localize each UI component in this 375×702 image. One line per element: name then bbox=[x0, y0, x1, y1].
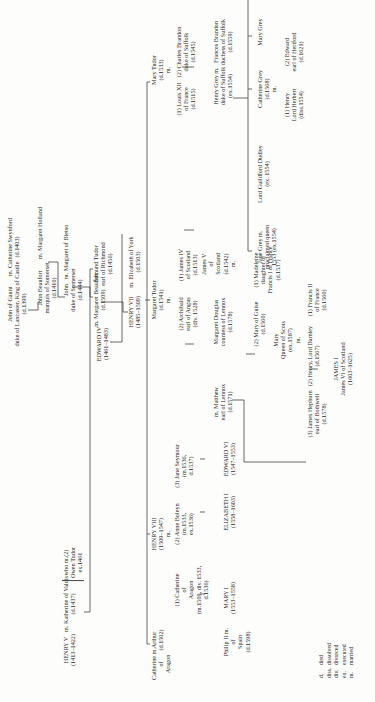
node-margaret-holland: m. Margaret Holland bbox=[36, 207, 43, 259]
node-margaret-douglas: Margaret Douglas countess of Lennox (d.1… bbox=[212, 298, 234, 346]
node-james-v: James V of Scotland (d.1542) m. bbox=[200, 253, 236, 275]
node-philip-ii: Philip II m. of Spain (d.1598) bbox=[222, 628, 251, 656]
node-mary-of-guise: (2) Mary of Guise (d.1560) bbox=[252, 302, 266, 347]
node-henry-lord-darnley: (2) Henry, Lord Darnley (d.1567) bbox=[306, 326, 320, 386]
node-charles-brandon: (2) Charles Brandon duke of Suffolk (d.1… bbox=[175, 27, 197, 78]
node-james-hepburn-bothwell: (3) James Hepburn earl of Bothwell (d.15… bbox=[306, 390, 328, 437]
node-henry-vii: HENRY VII (1485–1509) bbox=[127, 296, 141, 328]
legend-row: m.married bbox=[348, 643, 356, 678]
node-arthur: Arthur (d.1502) bbox=[150, 629, 164, 650]
node-elizabeth-i: ELIZABETH I (1558–1603) bbox=[222, 493, 236, 531]
node-margaret-tudor: Margaret Tudor (d.1541) m. bbox=[150, 281, 172, 320]
node-mary-tudor: Mary Tudor (d.1533) m. bbox=[150, 55, 172, 85]
node-jane-seymour: (3) Jane Seymour (m.1536, d.1537) bbox=[173, 444, 195, 488]
node-john-beaufort: John Beaufort marquis of Somerset (d.141… bbox=[36, 262, 58, 313]
legend-row: ex.executed bbox=[341, 643, 349, 678]
node-henry-viii: HENRY VIII (1509–1547) m. bbox=[150, 518, 172, 551]
node-edward-earl-of-hertford: (2) Edward earl of Hertford (d.1621) bbox=[283, 33, 305, 72]
node-catherine-of-aragon-wife-1: (1) Catherine of Aragon (m.1509, div. 15… bbox=[173, 566, 209, 614]
node-margaret-beaufort: m. Margaret Beaufort (d.1509) bbox=[92, 273, 106, 327]
node-james-i: JAMES I James VI of Scotland (1603–1625) bbox=[332, 343, 354, 396]
node-catherine-swynford: m. Catherine Swynford (d.1403) bbox=[6, 218, 20, 276]
legend-row: div.divorced bbox=[333, 643, 341, 678]
node-catherine-of-aragon-arthur-wife: Catherine m. of Aragon bbox=[150, 648, 172, 680]
legend-row: d.died bbox=[318, 643, 326, 678]
node-mary-grey: Mary Grey bbox=[256, 18, 263, 45]
tudor-family-tree: John of Gaunt duke of Lancaster, King of… bbox=[0, 0, 375, 702]
node-jane-grey: Jane Grey m. proclaimed queen 1553 (ex.1… bbox=[256, 225, 278, 269]
node-james-iv: (1) James IV of Scotland (d.1513) bbox=[177, 249, 199, 281]
node-edward-iv: EDWARD IV (1461–1483) bbox=[95, 327, 109, 362]
node-mary-i: MARY I (1553–1558) bbox=[222, 582, 236, 614]
node-margaret-of-bletso: m. Margaret of Bletso bbox=[62, 225, 69, 280]
node-catherine-grey: Catherine Grey (d.1568) m. bbox=[256, 70, 278, 108]
node-mary-queen-of-scots: Mary Queen of Scots (ex.1587) m. bbox=[272, 321, 301, 359]
legend-row: diss.dissolved bbox=[326, 643, 334, 678]
node-frances-brandon: Frances Brandon duchess of Suffolk (d.15… bbox=[212, 19, 234, 65]
node-henry-lord-herbert: (1) Henry Lord Herbert (diss.1554) bbox=[283, 89, 305, 121]
node-francis-ii: (1) Francis II of France (d.1560) bbox=[306, 284, 328, 317]
node-henry-grey: Henry Grey m. duke of Suffolk (ex.1554) bbox=[212, 67, 234, 106]
node-matthew-earl-of-lennox: m. Matthew earl of Lennox (d.1571) bbox=[212, 384, 234, 420]
node-henry-v: HENRY V (1413–1422) bbox=[62, 634, 76, 666]
node-katherine-of-valois: m. Katherine of Valois (d.1437) bbox=[62, 576, 76, 632]
node-owen-tudor: who m.(2) Owen Tudor ex.1461 bbox=[62, 547, 84, 581]
node-anne-boleyn: (2) Anne Boleyn (m.1533, ex.1536) bbox=[173, 503, 195, 544]
node-edward-vi: EDWARD VI (1547–1553) bbox=[222, 442, 236, 476]
node-elizabeth-of-york: m. Elizabeth of York (d.1503) bbox=[127, 236, 141, 287]
node-louis-xii: (1) Louis XII of France (d.1515) bbox=[175, 83, 197, 116]
node-archibald-earl-of-angus: (2) Archibald earl of Angus (div. 1528) bbox=[177, 297, 199, 330]
node-lord-guildford-dudley: Lord Guildford Dudley (ex. 1554) bbox=[256, 145, 270, 203]
abbreviation-legend: d.died diss.dissolved div.divorced ex.ex… bbox=[318, 643, 356, 678]
